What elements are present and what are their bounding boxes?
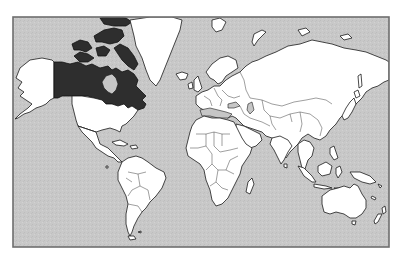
region-hispaniola: [130, 145, 138, 149]
region-sakhalin: [358, 74, 362, 88]
region-galapagos: [106, 166, 108, 168]
region-tasmania: [352, 221, 356, 225]
world-map: [0, 0, 401, 263]
region-sri-lanka: [284, 164, 287, 168]
map-canvas: [0, 0, 401, 263]
region-new-zealand-north: [382, 206, 386, 214]
